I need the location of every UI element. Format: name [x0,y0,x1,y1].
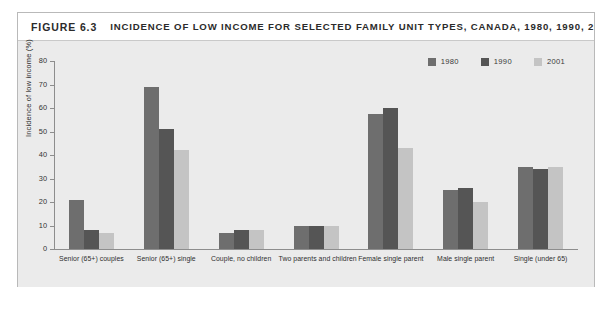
bar [219,233,234,249]
x-axis-label: Senior (65+) single [129,255,204,262]
x-axis-label: Male single parent [428,255,503,262]
figure-number: FIGURE 6.3 [31,21,97,33]
bar [249,230,264,249]
figure-root: FIGURE 6.3 INCIDENCE OF LOW INCOME FOR S… [0,0,612,311]
bar [99,233,114,249]
y-tick-label-0: 0 [43,244,47,253]
x-axis-category-labels: Senior (65+) couplesSenior (65+) singleC… [54,255,582,269]
y-tick-label-40: 40 [39,150,47,159]
bar [548,167,563,249]
y-tick-label-80: 80 [39,56,47,65]
y-axis-label: Incidence of low income (%) [24,39,33,137]
x-axis-label: Two parents and children [279,255,354,262]
bar [144,87,159,249]
bar [368,114,383,249]
bar [309,226,324,250]
figure-frame: FIGURE 6.3 INCIDENCE OF LOW INCOME FOR S… [17,12,595,287]
y-tick-label-20: 20 [39,197,47,206]
figure-title-bar: FIGURE 6.3 INCIDENCE OF LOW INCOME FOR S… [18,13,594,41]
bar [84,230,99,249]
x-axis-label: Couple, no children [204,255,279,262]
bar [383,108,398,249]
bar [234,230,249,249]
chart-panel: 198019902001 Incidence of low income (%)… [18,41,594,287]
bar [518,167,533,249]
bar [174,150,189,249]
bar [443,190,458,249]
x-axis-label: Single (under 65) [503,255,578,262]
chart-axes: 01020304050607080 [54,61,582,261]
y-tick-label-60: 60 [39,103,47,112]
y-tick-label-30: 30 [39,174,47,183]
bar [159,129,174,249]
y-tick-label-50: 50 [39,127,47,136]
bars-layer [54,61,578,249]
bar [294,226,309,250]
y-tick-label-10: 10 [39,221,47,230]
y-tick-0: 0 [50,249,54,250]
page-title: INCIDENCE OF LOW INCOME FOR SELECTED FAM… [110,21,594,32]
x-axis-line [54,249,578,250]
bar [533,169,548,249]
x-axis-label: Senior (65+) couples [54,255,129,262]
bar [69,200,84,249]
bar [458,188,473,249]
bar [398,148,413,249]
x-axis-label: Female single parent [353,255,428,262]
bar [473,202,488,249]
bar [324,226,339,250]
y-tick-label-70: 70 [39,80,47,89]
